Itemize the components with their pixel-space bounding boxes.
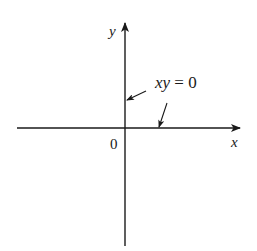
origin-label: 0 <box>110 136 118 152</box>
equation-equals: = <box>170 73 188 92</box>
equation-lhs: xy <box>154 73 171 92</box>
y-axis-label: y <box>107 23 116 39</box>
equation-rhs: 0 <box>188 73 197 92</box>
equation-label: xy = 0 <box>154 73 197 92</box>
pointer-arrow-x-axis <box>159 103 167 127</box>
axes-canvas: y x 0 xy = 0 <box>0 0 257 251</box>
x-axis-label: x <box>230 134 238 150</box>
coordinate-diagram: y x 0 xy = 0 <box>0 0 257 251</box>
pointer-arrow-y-axis <box>127 91 146 100</box>
